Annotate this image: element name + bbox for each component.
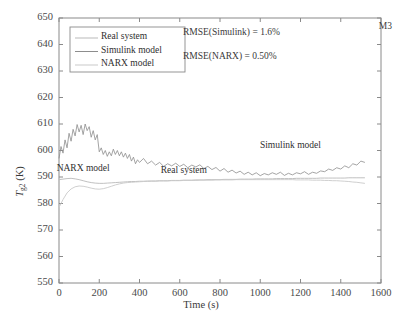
chart-canvas [0, 0, 402, 322]
x-tick-label: 800 [200, 287, 240, 298]
annotation-rmse-narx: RMSE(NARX) = 0.50% [183, 51, 277, 61]
legend-label: NARX model [101, 58, 154, 68]
curve-label-real-system: Real system [161, 165, 207, 175]
y-axis-label-subscript: g2 [18, 183, 27, 191]
y-tick-label: 650 [17, 11, 53, 22]
y-tick-label: 560 [17, 250, 53, 261]
y-tick-label: 620 [17, 91, 53, 102]
x-tick-label: 400 [120, 287, 160, 298]
x-tick-label: 1200 [281, 287, 321, 298]
annotation-rmse-simulink: RMSE(Simulink) = 1.6% [183, 27, 280, 37]
y-tick-label: 610 [17, 117, 53, 128]
series-narx-model [59, 180, 365, 208]
legend-label: Simulink model [101, 45, 162, 55]
corner-label-m3: M3 [379, 21, 392, 31]
x-tick-label: 600 [160, 287, 200, 298]
y-tick-label: 570 [17, 223, 53, 234]
y-tick-label: 600 [17, 144, 53, 155]
legend-label: Real system [101, 31, 147, 41]
y-tick-label: 590 [17, 170, 53, 181]
x-tick-label: 1000 [240, 287, 280, 298]
y-tick-label: 580 [17, 197, 53, 208]
y-tick-label: 640 [17, 38, 53, 49]
x-tick-label: 1400 [321, 287, 361, 298]
x-axis-label: Time (s) [0, 299, 402, 310]
x-tick-label: 1600 [361, 287, 401, 298]
curve-label-simulink-model: Simulink model [260, 140, 321, 150]
x-tick-label: 0 [39, 287, 79, 298]
x-tick-label: 200 [79, 287, 119, 298]
y-tick-label: 550 [17, 276, 53, 287]
y-tick-label: 630 [17, 64, 53, 75]
curve-label-narx-model: NARX model [57, 163, 110, 173]
figure-chart-m3: Tg2 (K) Time (s) M3 RMSE(Simulink) = 1.6… [0, 0, 402, 322]
